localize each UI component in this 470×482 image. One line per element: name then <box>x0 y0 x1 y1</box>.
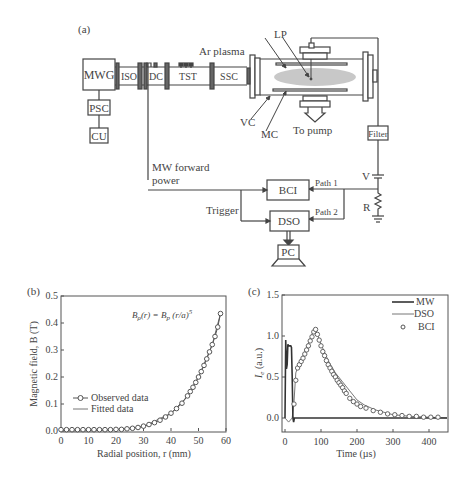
observed-point <box>64 427 69 432</box>
legend-mw: MW <box>416 296 435 307</box>
observed-point <box>188 389 193 394</box>
bci-point <box>421 415 425 419</box>
chart-b-ytick: 0.5 <box>46 290 59 301</box>
cu-label: CU <box>91 130 106 142</box>
chart-b-xtick: 30 <box>139 435 149 446</box>
mc-label: MC <box>261 128 278 140</box>
observed-point <box>158 418 163 423</box>
observed-point <box>152 420 157 425</box>
observed-point <box>59 427 64 432</box>
fitted-line <box>61 314 221 431</box>
iso-label: ISO <box>121 71 137 82</box>
chart-b-xlabel: Radial position, r (mm) <box>97 448 191 460</box>
observed-point <box>169 411 174 416</box>
chart-b-xtick: 60 <box>221 435 231 446</box>
observed-point <box>174 406 179 411</box>
v-label: V <box>362 170 370 182</box>
bci-point <box>344 391 348 395</box>
observed-point <box>218 311 223 316</box>
mw-power-label: power <box>152 174 180 186</box>
observed-point <box>141 424 146 429</box>
observed-point <box>191 385 196 390</box>
panel-a-label: (a) <box>78 23 91 36</box>
bci-point <box>429 415 433 419</box>
chart-b-legend: Observed data Fitted data <box>73 392 149 414</box>
dc-label: DC <box>149 71 163 82</box>
chart-b-xtick: 0 <box>59 435 64 446</box>
bci-point <box>364 406 368 410</box>
bci-point <box>393 413 397 417</box>
chart-b-ytick: 0.0 <box>46 425 59 436</box>
chart-b-ytick: 0.3 <box>46 344 59 355</box>
chart-c-ytick: 1.5 <box>267 289 280 300</box>
observed-point <box>196 375 201 380</box>
trigger-label: Trigger <box>206 204 239 216</box>
observed-point <box>130 426 135 431</box>
chart-c-xtick: 400 <box>422 436 437 447</box>
tst-label: TST <box>179 71 197 82</box>
ssc-label: SSC <box>220 71 238 82</box>
observed-point <box>75 427 80 432</box>
mw-forward-label: MW forward <box>152 161 210 173</box>
ar-plasma <box>274 68 356 86</box>
observed-point <box>125 427 130 432</box>
dso-label: DSO <box>278 215 300 227</box>
r-label: R <box>363 201 371 213</box>
observed-point <box>86 427 91 432</box>
bci-point <box>322 353 326 357</box>
legend-dso: DSO <box>414 308 434 319</box>
chart-b-xtick: 20 <box>111 435 121 446</box>
observed-point <box>207 350 212 355</box>
observed-point <box>210 342 215 347</box>
observed-point <box>97 427 102 432</box>
chart-c-legend: MW DSO BCI <box>392 296 435 332</box>
bci-point <box>294 378 298 382</box>
chart-c-xtick: 0 <box>283 436 288 447</box>
ar-plasma-label: Ar plasma <box>199 45 245 57</box>
legend-bci: BCI <box>418 321 435 332</box>
figure: (a) MWG PSC CU ISO DC TST SSC Ar plasma … <box>0 0 470 482</box>
bci-point <box>317 338 321 342</box>
psc-label: PSC <box>89 102 109 114</box>
bci-point <box>292 402 296 406</box>
observed-point <box>136 425 141 430</box>
chart-b: (b) 01020304050600.00.10.20.30.40.5 Bρ(r… <box>27 285 231 460</box>
bci-label: BCI <box>279 184 298 196</box>
observed-point <box>163 415 168 420</box>
chart-b-ytick: 0.4 <box>46 317 59 328</box>
observed-point <box>202 363 207 368</box>
chart-c-ytick: 0.0 <box>267 412 280 423</box>
observed-point <box>213 334 218 339</box>
to-pump-label: To pump <box>293 124 333 136</box>
chart-c-xtick: 200 <box>350 436 365 447</box>
chart-c-ytick: 1.0 <box>267 330 280 341</box>
chart-b-ytick: 0.2 <box>46 371 59 382</box>
panel-b-label: (b) <box>27 285 40 298</box>
bci-point <box>358 404 362 408</box>
observed-point <box>70 427 75 432</box>
bci-point <box>436 415 440 419</box>
bci-point <box>319 344 323 348</box>
mwg-label: MWG <box>84 68 115 82</box>
chart-c-ylabel: Ie (a.u.) <box>253 348 266 379</box>
vc-label: VC <box>240 116 255 128</box>
legend-observed: Observed data <box>91 392 149 403</box>
bci-point <box>306 344 310 348</box>
panel-c-label: (c) <box>248 285 261 298</box>
observed-point <box>185 394 190 399</box>
observed-point <box>119 427 124 432</box>
chart-c-ytick: 0.5 <box>267 371 280 382</box>
observed-point <box>147 422 152 427</box>
bci-point <box>407 414 411 418</box>
observed-point <box>199 369 204 374</box>
chart-b-xtick: 50 <box>194 435 204 446</box>
lp-label: LP <box>274 28 287 40</box>
bci-point <box>385 412 389 416</box>
chart-b-ylabel: Magnetic field, B (T) <box>28 321 40 407</box>
chart-b-ytick: 0.1 <box>46 398 59 409</box>
bci-point <box>414 414 418 418</box>
filter-label: Filter <box>368 129 388 139</box>
bci-point <box>400 413 404 417</box>
observed-point <box>193 380 198 385</box>
path2-label: Path 2 <box>315 207 338 217</box>
